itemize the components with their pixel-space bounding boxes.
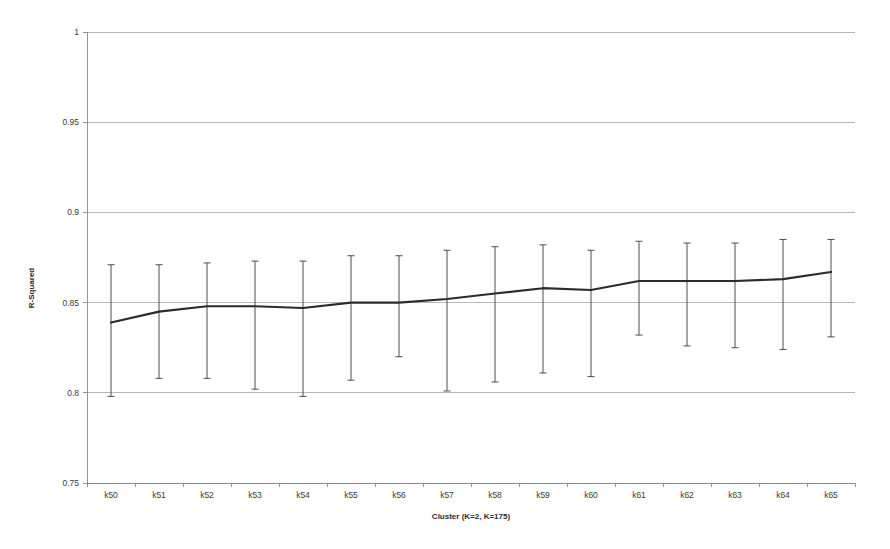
chart-container: 0.750.80.850.90.951 k50k51k52k53k54k55k5… — [0, 0, 890, 549]
y-tick-label-0.85: 0.85 — [62, 298, 79, 308]
x-tick-label-k64: k64 — [776, 490, 790, 500]
x-tick-label-k61: k61 — [632, 490, 646, 500]
chart-background — [0, 0, 890, 549]
y-tick-label-0.95: 0.95 — [62, 117, 79, 127]
x-tick-label-k60: k60 — [584, 490, 598, 500]
y-axis-title: R-Squared — [27, 268, 36, 309]
y-tick-label-0.9: 0.9 — [67, 207, 79, 217]
x-tick-label-k58: k58 — [488, 490, 502, 500]
x-tick-label-k59: k59 — [536, 490, 550, 500]
x-tick-label-k55: k55 — [344, 490, 358, 500]
x-tick-label-k51: k51 — [152, 490, 166, 500]
x-tick-label-k50: k50 — [104, 490, 118, 500]
y-tick-label-0.75: 0.75 — [62, 478, 79, 488]
x-tick-label-k57: k57 — [440, 490, 454, 500]
y-tick-label-0.8: 0.8 — [67, 388, 79, 398]
y-tick-label-1: 1 — [74, 27, 79, 37]
x-tick-label-k52: k52 — [200, 490, 214, 500]
x-tick-label-k54: k54 — [296, 490, 310, 500]
r-squared-line-chart: 0.750.80.850.90.951 k50k51k52k53k54k55k5… — [0, 0, 890, 549]
x-tick-label-k62: k62 — [680, 490, 694, 500]
x-tick-label-k63: k63 — [728, 490, 742, 500]
x-axis-title: Cluster (K=2, K=175) — [432, 512, 511, 521]
x-tick-label-k65: k65 — [824, 490, 838, 500]
x-tick-label-k53: k53 — [248, 490, 262, 500]
x-tick-label-k56: k56 — [392, 490, 406, 500]
